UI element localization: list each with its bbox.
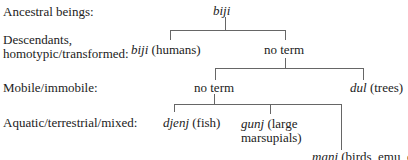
node-biji-humans: biji (humans) xyxy=(131,43,201,57)
node-gunj-gloss-line2: marsupials) xyxy=(241,131,302,145)
node-dul-gloss: (trees) xyxy=(370,80,403,95)
node-mani-term: mani xyxy=(312,149,338,160)
node-mani-birds: mani (birds, emu, dingo, insects...) xyxy=(312,150,408,160)
node-djenj-gloss: (fish) xyxy=(192,115,220,130)
node-djenj-term: djenj xyxy=(163,115,189,130)
node-no-term-level3: no term xyxy=(194,81,234,95)
node-biji-humans-term: biji xyxy=(131,42,148,57)
node-mani-gloss: (birds, emu, dingo, insects...) xyxy=(341,149,408,160)
node-dul-trees: dul (trees) xyxy=(350,81,403,95)
node-root-biji: biji xyxy=(213,4,230,18)
node-gunj-gloss-line1: (large xyxy=(267,116,297,131)
node-gunj-marsupials: gunj (large marsupials) xyxy=(241,117,302,145)
node-gunj-term: gunj xyxy=(241,116,264,131)
node-dul-term: dul xyxy=(350,80,367,95)
node-biji-humans-gloss: (humans) xyxy=(152,42,201,57)
node-djenj-fish: djenj (fish) xyxy=(163,116,220,130)
node-no-term-level2: no term xyxy=(264,43,304,57)
